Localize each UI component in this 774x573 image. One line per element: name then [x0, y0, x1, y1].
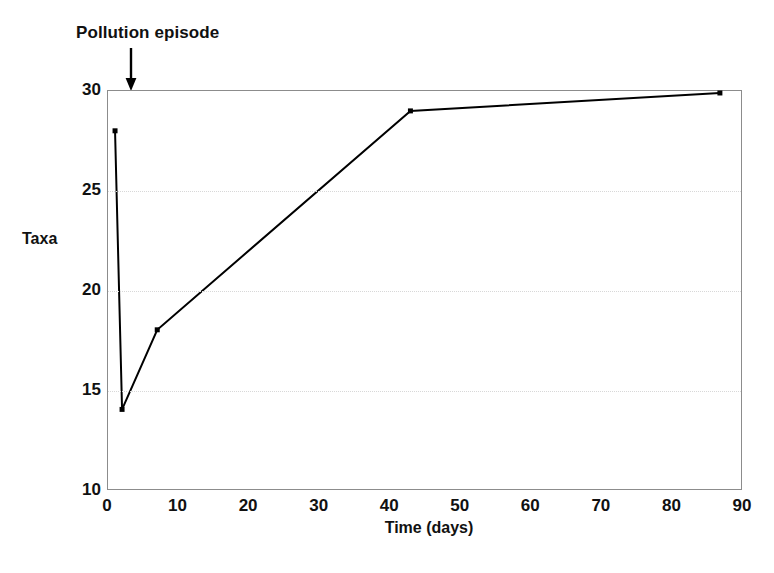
data-series-line: [108, 91, 741, 489]
x-tick-label-10: 10: [153, 496, 203, 516]
x-tick-label-40: 40: [364, 496, 414, 516]
x-axis-tick-labels: 0102030405060708090: [0, 496, 774, 522]
y-tick-label-15: 15: [55, 380, 101, 400]
plot-area: [107, 90, 742, 490]
x-tick-label-20: 20: [223, 496, 273, 516]
gridline-y-25: [108, 191, 741, 192]
data-point-marker-4: [717, 91, 722, 96]
data-point-marker-1: [120, 407, 125, 412]
y-tick-label-30: 30: [55, 80, 101, 100]
x-tick-label-30: 30: [294, 496, 344, 516]
x-tick-label-50: 50: [435, 496, 485, 516]
y-axis-tick-labels: 1015202530: [46, 0, 101, 573]
y-tick-label-20: 20: [55, 280, 101, 300]
y-tick-label-25: 25: [55, 180, 101, 200]
pollution-episode-arrow-icon: [120, 48, 142, 92]
series-polyline: [115, 93, 720, 409]
data-point-marker-3: [408, 108, 413, 113]
x-tick-label-70: 70: [576, 496, 626, 516]
x-tick-label-0: 0: [82, 496, 132, 516]
gridline-y-15: [108, 391, 741, 392]
x-tick-label-60: 60: [505, 496, 555, 516]
data-point-marker-0: [113, 128, 118, 133]
chart-figure: Pollution episode Taxa Time (days) 10152…: [0, 0, 774, 573]
x-tick-label-80: 80: [646, 496, 696, 516]
gridline-y-20: [108, 291, 741, 292]
x-tick-label-90: 90: [717, 496, 767, 516]
data-point-marker-2: [155, 327, 160, 332]
